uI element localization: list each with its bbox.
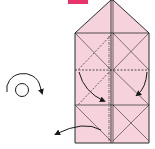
turn-over-icon [7,73,42,96]
origami-diagram [0,0,155,149]
paper-model [75,0,149,143]
